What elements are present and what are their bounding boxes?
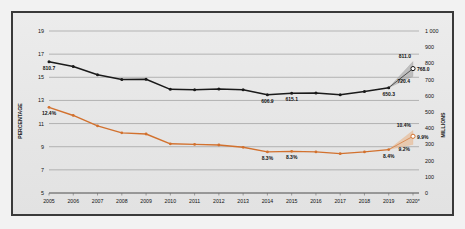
- data-point-marker: [315, 151, 318, 154]
- x-tick-label: 2014: [262, 198, 274, 204]
- data-point-marker: [145, 133, 148, 136]
- x-tick-label: 2007: [92, 198, 104, 204]
- data-point-marker: [169, 88, 172, 91]
- data-point-marker: [266, 151, 269, 154]
- x-tick-label: 2011: [189, 198, 200, 204]
- data-point-marker: [96, 73, 99, 76]
- left-tick-label: 9: [41, 144, 44, 150]
- data-point-marker: [314, 91, 317, 94]
- right-tick-label: 600: [425, 93, 434, 99]
- data-point-marker: [290, 150, 293, 153]
- projection-endpoint-marker-millions: [411, 66, 415, 70]
- right-tick-label: 0: [425, 190, 428, 196]
- data-point-marker: [145, 78, 148, 81]
- data-point-marker: [242, 88, 245, 91]
- right-axis-title: MILLIONS: [440, 112, 446, 137]
- projection-bands-group: [389, 62, 413, 150]
- gridlines-group: [49, 31, 419, 193]
- series-points-group: [48, 60, 416, 155]
- projection-lower-label: 720.4: [397, 78, 410, 84]
- data-point-marker: [363, 151, 366, 154]
- data-point-marker: [169, 142, 172, 145]
- data-point-label: 12.4%: [42, 110, 57, 116]
- data-point-marker: [387, 86, 390, 89]
- data-point-marker: [72, 65, 75, 68]
- projection-lower-label: 9.2%: [399, 146, 411, 152]
- left-tick-label: 15: [38, 74, 44, 80]
- series-lines-group: [49, 62, 389, 154]
- x-tick-label: 2015: [286, 198, 298, 204]
- data-point-marker: [387, 148, 390, 151]
- right-tick-label: 100: [425, 174, 434, 180]
- x-axis-line: [49, 193, 419, 196]
- data-point-label: 8.3%: [286, 154, 298, 160]
- x-tick-label: 2020*: [406, 198, 420, 204]
- chart-screenshot: 1917151311975 1 000900800700600500400300…: [0, 0, 465, 229]
- data-point-marker: [217, 144, 220, 147]
- right-tick-label: 1 000: [425, 28, 439, 34]
- x-axis-tick-labels: 2005200620072008200920102011201220132014…: [43, 198, 420, 204]
- x-tick-label: 2006: [67, 198, 79, 204]
- projection-central-label: 9.9%: [417, 134, 429, 140]
- data-point-label: 810.7: [43, 65, 56, 71]
- chart-frame: 1917151311975 1 000900800700600500400300…: [11, 11, 454, 216]
- left-tick-label: 17: [38, 51, 44, 57]
- data-point-label: 8.3%: [262, 155, 274, 161]
- left-tick-label: 13: [38, 97, 44, 103]
- right-tick-label: 400: [425, 125, 434, 131]
- right-tick-label: 300: [425, 141, 434, 147]
- data-point-marker: [363, 90, 366, 93]
- right-tick-label: 900: [425, 44, 434, 50]
- data-point-marker: [193, 88, 196, 91]
- left-tick-label: 19: [38, 28, 44, 34]
- data-point-marker: [48, 106, 51, 109]
- data-point-label: 615.1: [285, 96, 298, 102]
- undernourishment-line-chart: 1917151311975 1 000900800700600500400300…: [13, 13, 452, 214]
- data-point-marker: [120, 131, 123, 134]
- x-tick-label: 2018: [359, 198, 371, 204]
- right-tick-label: 500: [425, 109, 434, 115]
- data-point-marker: [120, 78, 123, 81]
- right-tick-label: 200: [425, 158, 434, 164]
- data-point-marker: [339, 152, 342, 155]
- data-point-marker: [72, 114, 75, 117]
- x-tick-label: 2008: [116, 198, 128, 204]
- right-axis-tick-labels: 1 0009008007006005004003002001000: [425, 28, 439, 196]
- data-point-label: 650.3: [382, 91, 395, 97]
- projection-central-label: 768.0: [417, 66, 430, 72]
- x-tick-label: 2005: [43, 198, 55, 204]
- projection-upper-label: 10.4%: [397, 122, 412, 128]
- data-point-labels-group: 811.0768.0720.4810.7606.9615.1650.310.4%…: [42, 53, 430, 161]
- data-point-label: 8.4%: [383, 153, 395, 159]
- left-tick-label: 11: [38, 121, 44, 127]
- left-axis-title: PERCENTAGE: [17, 103, 23, 139]
- data-point-marker: [48, 60, 51, 63]
- x-tick-label: 2013: [237, 198, 249, 204]
- left-tick-label: 5: [41, 190, 44, 196]
- data-point-marker: [193, 143, 196, 146]
- left-tick-label: 7: [41, 167, 44, 173]
- right-tick-label: 700: [425, 77, 434, 83]
- data-point-marker: [96, 124, 99, 127]
- data-point-marker: [290, 92, 293, 95]
- data-point-marker: [242, 146, 245, 149]
- data-point-marker: [339, 93, 342, 96]
- x-tick-label: 2009: [140, 198, 152, 204]
- x-tick-label: 2012: [213, 198, 225, 204]
- data-point-marker: [266, 93, 269, 96]
- x-tick-label: 2010: [165, 198, 177, 204]
- projection-endpoint-marker-percentage: [411, 134, 415, 138]
- x-tick-label: 2017: [334, 198, 346, 204]
- data-point-marker: [217, 87, 220, 90]
- data-point-label: 606.9: [261, 98, 274, 104]
- x-tick-label: 2016: [310, 198, 322, 204]
- projection-upper-label: 811.0: [399, 53, 411, 59]
- x-tick-label: 2019: [383, 198, 395, 204]
